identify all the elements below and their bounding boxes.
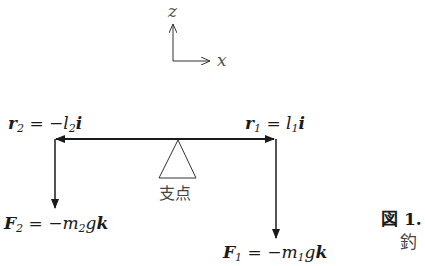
- caption-text: 釣: [400, 228, 417, 253]
- fulcrum-triangle: [159, 140, 196, 178]
- f2-label: F2 = −m2gk: [4, 215, 108, 234]
- axes-icon: [173, 24, 210, 61]
- r2-label: r2 = −l2i: [8, 115, 82, 134]
- z-axis-label: z: [168, 3, 177, 20]
- r1-label: r1 = l1i: [245, 115, 305, 134]
- figure-caption: 図 1.: [381, 205, 422, 230]
- f1-label: F1 = −m1gk: [223, 244, 327, 263]
- x-axis-label: x: [217, 52, 227, 69]
- fulcrum-label: 支点: [159, 186, 191, 202]
